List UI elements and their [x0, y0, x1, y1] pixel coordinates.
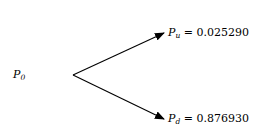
root-node-label: P0 [13, 69, 25, 82]
down-value: 0.876930 [196, 112, 249, 125]
down-node-label: Pd = 0.876930 [168, 113, 249, 126]
up-equals: = [184, 26, 193, 39]
down-equals: = [184, 112, 193, 125]
down-subscript: d [175, 117, 180, 126]
down-branch-arrow [73, 75, 164, 119]
root-subscript: 0 [20, 73, 25, 82]
up-node-label: Pu = 0.025290 [168, 27, 249, 40]
up-subscript: u [175, 31, 180, 40]
up-value: 0.025290 [196, 26, 249, 39]
up-branch-arrow [73, 33, 164, 75]
